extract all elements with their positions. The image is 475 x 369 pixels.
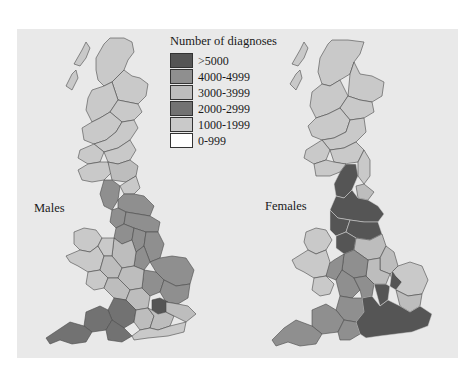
- females-uk-map: [0, 0, 475, 369]
